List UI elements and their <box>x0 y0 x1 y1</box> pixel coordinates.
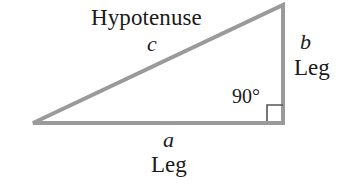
horizontal-leg-label: Leg <box>151 153 187 176</box>
vertical-leg-variable-label: b <box>300 31 311 53</box>
right-angle-measure-label: 90° <box>232 86 260 106</box>
horizontal-leg-variable-label: a <box>163 129 174 151</box>
hypotenuse-variable-label: c <box>147 33 157 55</box>
right-triangle-figure: Hypotenuse c b Leg 90° a Leg <box>0 0 346 191</box>
right-angle-marker-icon <box>267 105 283 121</box>
hypotenuse-label: Hypotenuse <box>91 6 202 29</box>
vertical-leg-label: Leg <box>294 56 330 79</box>
